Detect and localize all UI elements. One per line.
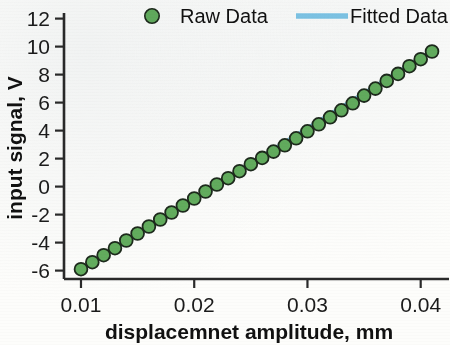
y-tick-label: -2 <box>31 203 50 226</box>
data-point-marker <box>369 82 382 95</box>
y-tick-label: 4 <box>38 119 50 142</box>
y-tick-label: 6 <box>38 91 50 114</box>
data-point-marker <box>392 68 405 81</box>
data-point-marker <box>414 53 427 66</box>
legend-label-fitted-data: Fitted Data <box>350 5 449 27</box>
y-tick-label: -6 <box>31 259 50 282</box>
y-tick-label: 0 <box>38 175 50 198</box>
data-point-marker <box>346 97 359 110</box>
x-tick-label: 0.02 <box>174 293 215 316</box>
x-tick-label: 0.04 <box>400 293 441 316</box>
y-tick-label: 8 <box>38 63 50 86</box>
data-point-marker <box>109 242 122 255</box>
legend-circle-marker-icon <box>145 9 159 23</box>
chart-figure: -6-4-2024681012 0.010.020.030.04 displac… <box>0 0 450 345</box>
x-axis-title: displacemnet amplitude, mm <box>105 320 393 343</box>
y-tick-label: -4 <box>31 231 50 254</box>
y-axis-title: input signal, V <box>3 76 26 220</box>
y-tick-label: 2 <box>38 147 50 170</box>
x-tick-label: 0.03 <box>287 293 328 316</box>
y-tick-label: 12 <box>27 7 50 30</box>
x-tick-label: 0.01 <box>61 293 102 316</box>
y-tick-label: 10 <box>27 35 50 58</box>
data-point-marker <box>426 45 439 58</box>
legend-label-raw-data: Raw Data <box>180 5 269 27</box>
chart-canvas: -6-4-2024681012 0.010.020.030.04 displac… <box>0 0 450 345</box>
